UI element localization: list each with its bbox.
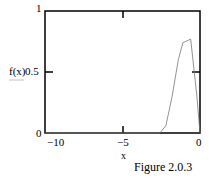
x-tick-label-0: 0	[196, 136, 202, 148]
plot-frame	[45, 11, 200, 133]
y-tick-label-1: 1	[36, 2, 42, 14]
y-tick-label-0.5: 0.5	[25, 65, 39, 77]
y-axis-label: f(x)	[9, 65, 26, 77]
y-tick-label-0: 0	[36, 127, 42, 139]
plot-area	[0, 0, 209, 184]
data-line	[45, 39, 200, 133]
figure-caption: Figure 2.0.3	[134, 160, 192, 175]
x-tick-label-neg5: −5	[117, 136, 129, 148]
x-tick-label-neg10: −10	[47, 136, 64, 148]
x-axis-label: x	[121, 150, 126, 161]
